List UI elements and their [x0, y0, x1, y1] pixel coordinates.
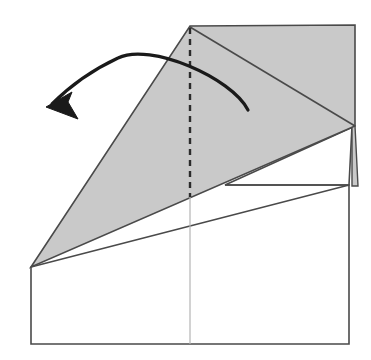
origami-diagram-figure	[0, 0, 371, 360]
origami-diagram-canvas	[0, 0, 371, 360]
gray-sliver-right	[352, 126, 358, 186]
